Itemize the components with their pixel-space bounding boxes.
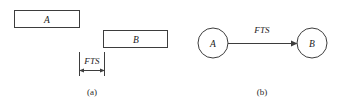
fts-dependency-label: FTS — [253, 25, 270, 35]
task-node-b[interactable]: B — [297, 28, 327, 58]
dependency-arrow-head-icon — [291, 41, 298, 47]
task-node-b-label: B — [309, 39, 315, 49]
task-bar-a[interactable]: A — [15, 11, 80, 28]
fts-dimension-label: FTS — [83, 56, 100, 66]
panel-a-caption: (a) — [87, 87, 97, 97]
task-node-a-label: A — [209, 39, 216, 49]
task-node-a[interactable]: A — [198, 28, 228, 58]
fts-dimension-indicator: FTS — [79, 52, 105, 76]
task-bar-a-label: A — [43, 15, 50, 25]
panel-b-caption: (b) — [257, 87, 268, 97]
task-bar-b[interactable]: B — [104, 31, 168, 48]
panel-a-group: A B FTS (a) — [15, 11, 168, 98]
figure-canvas: A B FTS (a) — [0, 0, 342, 107]
task-bar-b-label: B — [133, 35, 139, 45]
fts-dependency-arrow[interactable]: FTS — [228, 25, 298, 46]
figure-container: A B FTS (a) — [0, 0, 342, 107]
panel-b-group: A B FTS (b) — [198, 25, 327, 97]
